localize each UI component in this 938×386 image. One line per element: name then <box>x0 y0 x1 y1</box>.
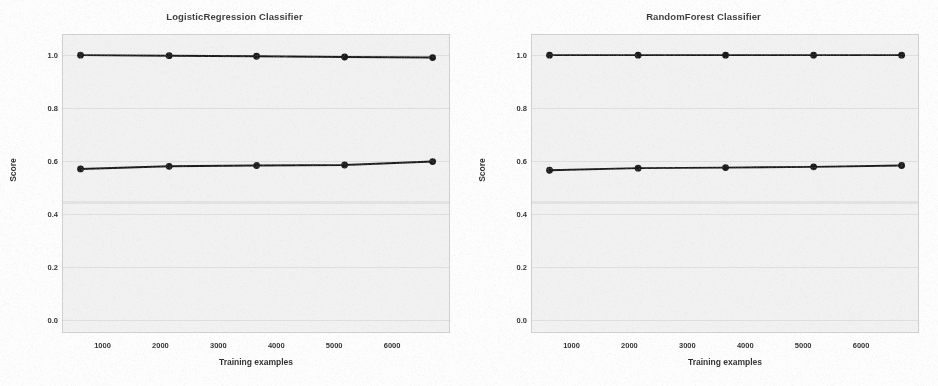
subplot-logisticregression: LogisticRegression Classifier 1.00.80.60… <box>0 0 469 386</box>
data-point-marker <box>898 52 905 59</box>
y-axis-ticks: 1.00.80.60.40.20.0 <box>22 34 58 333</box>
y-axis-label: Score <box>8 140 18 200</box>
x-tick-label: 5000 <box>314 341 354 350</box>
data-point-marker <box>546 52 553 59</box>
x-axis-ticks: 100020003000400050006000 <box>62 341 450 355</box>
data-point-marker <box>898 162 905 169</box>
data-point-marker <box>635 52 642 59</box>
x-axis-ticks: 100020003000400050006000 <box>531 341 919 355</box>
data-point-marker <box>429 54 436 61</box>
data-point-marker <box>166 163 173 170</box>
x-axis-label: Training examples <box>62 357 450 367</box>
x-tick-label: 2000 <box>140 341 180 350</box>
data-point-marker <box>341 54 348 61</box>
y-tick-label: 0.6 <box>28 157 58 166</box>
series-layer <box>531 34 919 333</box>
y-tick-label: 0.0 <box>497 315 527 324</box>
data-point-marker <box>77 166 84 173</box>
x-tick-label: 1000 <box>552 341 592 350</box>
y-tick-label: 0.4 <box>497 209 527 218</box>
panel-title: RandomForest Classifier <box>469 11 938 22</box>
data-point-marker <box>166 52 173 59</box>
plot-area <box>62 34 450 333</box>
data-point-marker <box>341 162 348 169</box>
data-point-marker <box>77 52 84 59</box>
y-tick-label: 1.0 <box>497 51 527 60</box>
series-layer <box>62 34 450 333</box>
data-point-marker <box>546 167 553 174</box>
y-tick-label: 0.4 <box>28 209 58 218</box>
y-tick-label: 0.2 <box>497 262 527 271</box>
y-tick-label: 0.8 <box>497 104 527 113</box>
x-tick-label: 3000 <box>667 341 707 350</box>
y-tick-label: 1.0 <box>28 51 58 60</box>
y-tick-label: 0.2 <box>28 262 58 271</box>
x-tick-label: 5000 <box>783 341 823 350</box>
panel-title: LogisticRegression Classifier <box>0 11 469 22</box>
x-tick-label: 2000 <box>609 341 649 350</box>
data-point-marker <box>253 53 260 60</box>
y-tick-label: 0.6 <box>497 157 527 166</box>
figure-canvas: LogisticRegression Classifier 1.00.80.60… <box>0 0 938 386</box>
y-tick-label: 0.0 <box>28 315 58 324</box>
subplot-randomforest: RandomForest Classifier 1.00.80.60.40.20… <box>469 0 938 386</box>
x-tick-label: 6000 <box>372 341 412 350</box>
x-tick-label: 4000 <box>256 341 296 350</box>
data-point-marker <box>810 52 817 59</box>
data-point-marker <box>253 162 260 169</box>
x-tick-label: 1000 <box>83 341 123 350</box>
x-axis-label: Training examples <box>531 357 919 367</box>
plot-area <box>531 34 919 333</box>
data-point-marker <box>635 165 642 172</box>
data-point-marker <box>429 158 436 165</box>
data-point-marker <box>810 163 817 170</box>
x-tick-label: 3000 <box>198 341 238 350</box>
x-tick-label: 4000 <box>725 341 765 350</box>
x-tick-label: 6000 <box>841 341 881 350</box>
data-point-marker <box>722 164 729 171</box>
y-axis-label: Score <box>477 140 487 200</box>
y-tick-label: 0.8 <box>28 104 58 113</box>
data-point-marker <box>722 52 729 59</box>
y-axis-ticks: 1.00.80.60.40.20.0 <box>491 34 527 333</box>
